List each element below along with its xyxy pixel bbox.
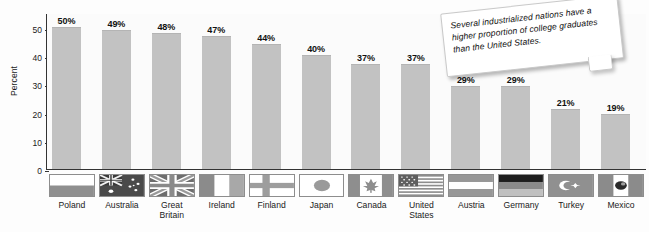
country-label-line1: Australia bbox=[97, 200, 147, 210]
callout-tail bbox=[588, 54, 613, 72]
bar-slot: 40% bbox=[297, 14, 347, 169]
flag-great-britain-icon bbox=[149, 174, 195, 197]
country-label-line1: Great bbox=[147, 200, 197, 210]
flag-turkey-icon bbox=[548, 174, 594, 197]
country-label-line2: States bbox=[396, 210, 446, 220]
flag-cell bbox=[47, 174, 97, 197]
flag-cell bbox=[347, 174, 397, 197]
bar-value-label: 29% bbox=[451, 75, 480, 85]
flag-cell bbox=[297, 174, 347, 197]
country-label: Australia bbox=[97, 200, 147, 210]
bar-value-label: 47% bbox=[202, 25, 231, 35]
bar-value-label: 29% bbox=[501, 75, 530, 85]
flag-austria-icon bbox=[448, 174, 494, 197]
y-axis-ticks: 01020304050 bbox=[22, 16, 46, 168]
y-axis-title: Percent bbox=[9, 46, 19, 116]
flag-cell bbox=[596, 174, 646, 197]
flag-cell bbox=[247, 174, 297, 197]
bar-value-label: 50% bbox=[52, 16, 81, 26]
y-tick-label: 0 bbox=[37, 166, 42, 176]
flag-finland-icon bbox=[249, 174, 295, 197]
flag-mexico-icon bbox=[598, 174, 644, 197]
bar[interactable] bbox=[252, 44, 281, 169]
country-label-line1: Turkey bbox=[546, 200, 596, 210]
bar-value-label: 49% bbox=[102, 19, 131, 29]
y-tick-label: 30 bbox=[33, 81, 42, 91]
bar-slot: 37% bbox=[347, 14, 397, 169]
y-tick-label: 10 bbox=[33, 138, 42, 148]
bar-value-label: 48% bbox=[152, 22, 181, 32]
flag-united-states-icon bbox=[398, 174, 444, 197]
country-label: GreatBritain bbox=[147, 200, 197, 220]
country-label-line1: Ireland bbox=[197, 200, 247, 210]
country-label: Finland bbox=[247, 200, 297, 210]
flag-cell bbox=[147, 174, 197, 197]
bar[interactable] bbox=[52, 27, 81, 169]
flag-ireland-icon bbox=[199, 174, 245, 197]
bar[interactable] bbox=[601, 114, 630, 169]
bar-slot: 47% bbox=[197, 14, 247, 169]
bar[interactable] bbox=[551, 109, 580, 169]
country-label-line1: Austria bbox=[446, 200, 496, 210]
bar[interactable] bbox=[102, 30, 131, 169]
bar[interactable] bbox=[451, 86, 480, 169]
country-label-line1: Canada bbox=[347, 200, 397, 210]
flag-japan-icon bbox=[299, 174, 345, 197]
bar[interactable] bbox=[501, 86, 530, 169]
bar-slot: 50% bbox=[47, 14, 97, 169]
bar[interactable] bbox=[351, 64, 380, 169]
bar[interactable] bbox=[401, 64, 430, 169]
country-label-line1: United bbox=[396, 200, 446, 210]
callout-note: Several industrialized nations have a hi… bbox=[440, 0, 622, 75]
bar[interactable] bbox=[152, 33, 181, 169]
country-label: Mexico bbox=[596, 200, 646, 210]
bar-slot: 44% bbox=[247, 14, 297, 169]
country-label-line2: Britain bbox=[147, 210, 197, 220]
flag-cell bbox=[496, 174, 546, 197]
bar-value-label: 40% bbox=[302, 44, 331, 54]
country-label: Japan bbox=[297, 200, 347, 210]
flag-cell bbox=[446, 174, 496, 197]
bar-chart: Percent 01020304050 50%49%48%47%44%40%37… bbox=[0, 0, 649, 232]
country-label: Canada bbox=[347, 200, 397, 210]
bar-value-label: 19% bbox=[601, 103, 630, 113]
country-label-line1: Finland bbox=[247, 200, 297, 210]
country-label-line1: Poland bbox=[47, 200, 97, 210]
flag-canada-icon bbox=[348, 174, 394, 197]
x-axis-line bbox=[46, 169, 646, 170]
bar-value-label: 37% bbox=[401, 53, 430, 63]
bar-value-label: 21% bbox=[551, 98, 580, 108]
y-tick-label: 20 bbox=[33, 110, 42, 120]
country-label-line1: Germany bbox=[496, 200, 546, 210]
flag-cell bbox=[546, 174, 596, 197]
flag-strip bbox=[47, 174, 646, 198]
bar-value-label: 44% bbox=[252, 33, 281, 43]
flag-cell bbox=[97, 174, 147, 197]
y-tick-mark bbox=[45, 171, 49, 172]
bar-slot: 49% bbox=[97, 14, 147, 169]
country-label: UnitedStates bbox=[396, 200, 446, 220]
country-label: Germany bbox=[496, 200, 546, 210]
bar-slot: 48% bbox=[147, 14, 197, 169]
country-label-line1: Japan bbox=[297, 200, 347, 210]
country-label: Turkey bbox=[546, 200, 596, 210]
bar[interactable] bbox=[202, 36, 231, 169]
x-axis-labels: PolandAustraliaGreatBritainIrelandFinlan… bbox=[47, 200, 646, 228]
bar-value-label: 37% bbox=[351, 53, 380, 63]
flag-germany-icon bbox=[498, 174, 544, 197]
bar[interactable] bbox=[302, 55, 331, 169]
y-tick-label: 40 bbox=[33, 53, 42, 63]
country-label: Ireland bbox=[197, 200, 247, 210]
flag-cell bbox=[396, 174, 446, 197]
country-label: Austria bbox=[446, 200, 496, 210]
flag-australia-icon bbox=[99, 174, 145, 197]
flag-poland-icon bbox=[49, 174, 95, 197]
bar-slot: 37% bbox=[396, 14, 446, 169]
country-label: Poland bbox=[47, 200, 97, 210]
y-tick-label: 50 bbox=[33, 25, 42, 35]
flag-cell bbox=[197, 174, 247, 197]
country-label-line1: Mexico bbox=[596, 200, 646, 210]
